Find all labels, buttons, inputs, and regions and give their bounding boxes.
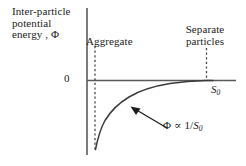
y-axis-label: Inter-particlepotentialenergy , Φ xyxy=(12,6,71,41)
y-axis-label-line1: Inter-particle xyxy=(12,5,71,17)
annotation-arrow-head xyxy=(131,106,141,115)
y-axis-label-line2: potential xyxy=(12,17,51,29)
separate-particles-line1: Separate xyxy=(186,23,225,35)
x-axis-label-subscript: 0 xyxy=(217,88,221,97)
x-axis-label: S0 xyxy=(211,84,220,97)
annotation-symbol: S xyxy=(193,119,199,131)
proportionality-annotation: Φ ∝ 1/S0 xyxy=(163,120,203,133)
x-axis-label-symbol: S xyxy=(211,83,217,95)
aggregate-region-label: Aggregate xyxy=(86,36,133,48)
potential-energy-curve xyxy=(96,81,214,150)
annotation-subscript: 0 xyxy=(199,124,203,133)
annotation-prefix: Φ ∝ 1/ xyxy=(163,119,193,131)
y-axis-label-line3: energy , Φ xyxy=(12,28,59,40)
potential-energy-figure: Inter-particlepotentialenergy , Φ 0 Aggr… xyxy=(0,0,246,166)
separate-particles-line2: particles xyxy=(186,35,224,47)
separate-particles-region-label: Separateparticles xyxy=(174,24,236,47)
zero-tick-label: 0 xyxy=(64,73,70,85)
